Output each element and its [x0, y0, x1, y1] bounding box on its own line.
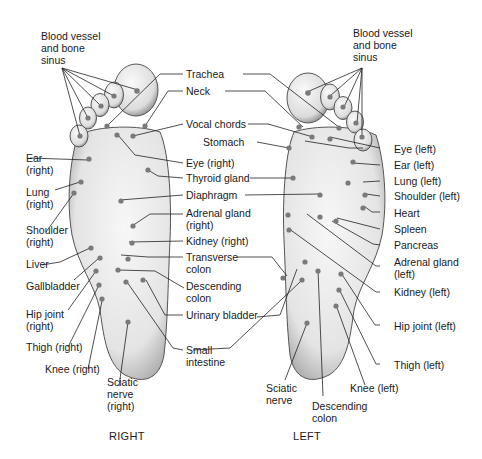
label-knee-right: Knee (right)	[45, 363, 100, 375]
label-line: Small	[186, 344, 225, 356]
label-shoulder-right: Shoulder (right)	[26, 224, 68, 248]
label-line: Ear	[26, 152, 53, 164]
label-line: Descending	[312, 400, 367, 412]
label-line: colon	[312, 412, 367, 424]
label-vocal-chords: Vocal chords	[186, 118, 246, 130]
label-blood-vessel-left: Blood vessel and bone sinus	[353, 27, 413, 63]
label-line: Lung	[26, 186, 53, 198]
label-adrenal-right: Adrenal gland (right)	[186, 207, 251, 231]
label-line: colon	[186, 263, 238, 275]
label-eye-right: Eye (right)	[186, 157, 234, 169]
label-neck: Neck	[186, 85, 210, 97]
label-line: intestine	[186, 356, 225, 368]
label-line: and bone	[41, 42, 101, 54]
label-hip-right: Hip joint (right)	[26, 308, 64, 332]
label-sciatic-left: Sciatic nerve	[266, 382, 297, 406]
label-line: Blood vessel	[41, 30, 101, 42]
label-descending-colon-left: Descending colon	[312, 400, 367, 424]
caption-right-foot: RIGHT	[109, 430, 145, 442]
label-kidney-left: Kidney (left)	[394, 286, 450, 298]
caption-left-foot: LEFT	[293, 430, 321, 442]
label-line: Shoulder	[26, 224, 68, 236]
label-gallbladder: Gallbladder	[26, 280, 80, 292]
label-heart: Heart	[394, 207, 420, 219]
label-line: and bone	[353, 39, 413, 51]
label-line: (left)	[394, 268, 459, 280]
label-line: (right)	[26, 164, 53, 176]
label-transverse-colon: Transverse colon	[186, 251, 238, 275]
label-thyroid: Thyroid gland	[186, 172, 250, 184]
label-thigh-left: Thigh (left)	[394, 359, 444, 371]
label-line: Descending	[186, 280, 241, 292]
label-ear-left: Ear (left)	[394, 159, 434, 171]
label-liver: Liver	[26, 258, 49, 270]
label-lung-right: Lung (right)	[26, 186, 53, 210]
label-line: nerve	[107, 388, 138, 400]
label-knee-left: Knee (left)	[350, 382, 398, 394]
label-line: colon	[186, 292, 241, 304]
label-line: (right)	[107, 400, 138, 412]
label-kidney-right: Kidney (right)	[186, 235, 248, 247]
label-line: Sciatic	[266, 382, 297, 394]
label-adrenal-left: Adrenal gland (left)	[394, 256, 459, 280]
label-line: sinus	[353, 51, 413, 63]
label-eye-left: Eye (left)	[394, 143, 436, 155]
label-ear-right: Ear (right)	[26, 152, 53, 176]
label-spleen: Spleen	[394, 223, 427, 235]
label-descending-colon-center: Descending colon	[186, 280, 241, 304]
label-line: Blood vessel	[353, 27, 413, 39]
label-hip-left: Hip joint (left)	[394, 320, 456, 332]
label-line: sinus	[41, 54, 101, 66]
label-line: Sciatic	[107, 376, 138, 388]
label-line: (right)	[26, 236, 68, 248]
label-lung-left: Lung (left)	[394, 175, 441, 187]
label-line: (right)	[26, 198, 53, 210]
label-thigh-right: Thigh (right)	[26, 341, 83, 353]
label-line: Adrenal gland	[186, 207, 251, 219]
label-shoulder-left: Shoulder (left)	[394, 190, 460, 202]
label-blood-vessel-right: Blood vessel and bone sinus	[41, 30, 101, 66]
label-line: Adrenal gland	[394, 256, 459, 268]
label-pancreas: Pancreas	[394, 239, 438, 251]
label-line: Transverse	[186, 251, 238, 263]
label-sciatic-right: Sciatic nerve (right)	[107, 376, 138, 412]
label-line: Hip joint	[26, 308, 64, 320]
label-small-intestine: Small intestine	[186, 344, 225, 368]
label-line: (right)	[26, 320, 64, 332]
label-trachea: Trachea	[186, 68, 224, 80]
label-stomach: Stomach	[203, 136, 244, 148]
label-line: (right)	[186, 219, 251, 231]
label-line: nerve	[266, 394, 297, 406]
label-diaphragm: Diaphragm	[186, 189, 237, 201]
label-urinary-bladder: Urinary bladder	[186, 309, 258, 321]
